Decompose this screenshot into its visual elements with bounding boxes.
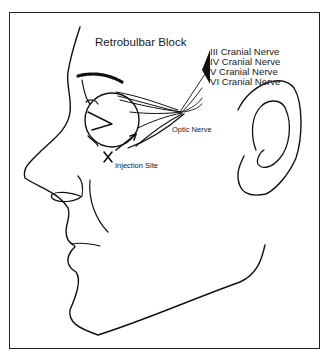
injection-site-mark [104,152,112,162]
ear-outer [238,81,301,195]
injection-site-label: Injection Site [115,161,158,170]
cranial-nerve-bracket [202,50,210,84]
eyebrow [78,74,122,82]
ear-inner [253,101,290,167]
nostril [51,176,82,202]
optic-nerve-label: Optic Nerve [172,125,212,134]
mouth-line [72,243,100,246]
face-profile-drawing [0,0,333,359]
cranial-nerve-labels: III Cranial Nerve IV Cranial Nerve V Cra… [210,47,280,87]
diagram-title: Retrobulbar Block [95,36,186,48]
nerve-bundle [180,74,205,112]
eyelid [88,112,112,130]
cheek-line [90,180,108,232]
nerve-label-vi: VI Cranial Nerve [210,77,280,87]
needle [116,134,136,150]
lower-lid [88,136,98,146]
